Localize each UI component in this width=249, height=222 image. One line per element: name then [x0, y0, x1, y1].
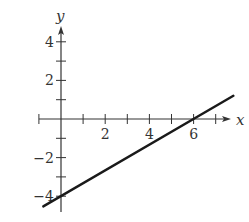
data-line — [43, 96, 233, 207]
y-tick-label: 2 — [45, 72, 54, 88]
series — [43, 96, 233, 207]
x-tick-label: 4 — [145, 126, 154, 142]
y-tick-label: −2 — [33, 150, 54, 166]
x-axis-label: x — [236, 111, 245, 129]
x-tick-label: 6 — [189, 126, 198, 142]
y-axis-label: y — [55, 7, 65, 25]
x-tick-label: 2 — [101, 126, 110, 142]
y-tick-label: 4 — [45, 34, 54, 50]
line-chart: 24642−2−4 x y — [0, 0, 249, 222]
axes — [39, 26, 231, 212]
